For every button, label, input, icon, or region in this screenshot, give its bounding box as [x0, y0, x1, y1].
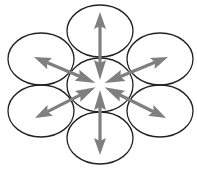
double-arrow-icon	[35, 87, 96, 118]
double-arrow-icon	[104, 87, 166, 118]
ellipse-arrow-diagram	[0, 0, 197, 171]
lower-left-ellipse	[8, 85, 74, 137]
double-arrow-icon	[94, 12, 106, 80]
double-arrow-icon	[94, 90, 106, 155]
lower-right-ellipse	[127, 85, 193, 137]
